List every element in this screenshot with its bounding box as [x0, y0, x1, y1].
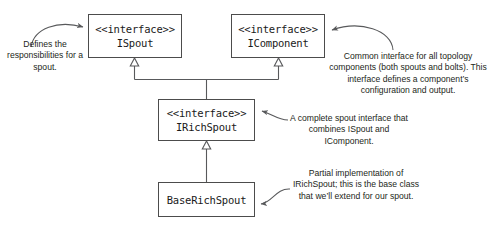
- generalization-irichspout-to-parents: [130, 58, 282, 99]
- class-name-icomponent: IComponent: [247, 36, 308, 50]
- annotation-ispout: Defines the responsibilities for a spout…: [2, 39, 88, 73]
- stereotype-label-icomponent: <<interface>>: [238, 22, 318, 36]
- annotation-irichspout: A complete spout interface that combines…: [286, 113, 412, 147]
- uml-box-ispout: <<interface>> ISpout: [88, 14, 182, 58]
- leader-line-icomponent: [332, 26, 393, 50]
- uml-class-diagram: <<interface>> ISpout <<interface>> IComp…: [0, 0, 489, 227]
- class-name-baserichspout: BaseRichSpout: [167, 193, 247, 207]
- stereotype-label-ispout: <<interface>>: [95, 22, 175, 36]
- generalization-baserichspout-to-irichspout: [202, 141, 210, 182]
- class-name-ispout: ISpout: [117, 36, 154, 50]
- uml-box-baserichspout: BaseRichSpout: [158, 182, 255, 217]
- stereotype-label-irichspout: <<interface>>: [167, 106, 247, 120]
- leader-line-irichspout: [262, 111, 288, 120]
- uml-box-icomponent: <<interface>> IComponent: [231, 14, 325, 58]
- annotation-baserichspout: Partial implementation of IRichSpout; th…: [289, 168, 423, 202]
- leader-line-baserichspout: [261, 189, 290, 204]
- uml-box-irichspout: <<interface>> IRichSpout: [158, 99, 255, 141]
- annotation-icomponent: Common interface for all topology compon…: [329, 51, 487, 97]
- class-name-irichspout: IRichSpout: [176, 120, 237, 134]
